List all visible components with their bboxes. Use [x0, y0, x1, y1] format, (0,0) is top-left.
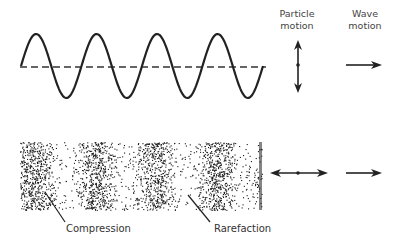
particle-dot [229, 198, 230, 199]
particle-dot [46, 187, 47, 188]
particle-dot [210, 147, 211, 148]
particle-dot [91, 153, 92, 154]
particle-dot [202, 184, 203, 185]
particle-dot [65, 145, 66, 146]
particle-dot [177, 205, 178, 206]
particle-dot [219, 162, 220, 163]
particle-dot [216, 170, 217, 171]
particle-dot [102, 152, 103, 153]
particle-dot [197, 170, 198, 171]
particle-dot [72, 179, 73, 180]
particle-dot [222, 180, 223, 181]
particle-dot [98, 148, 99, 149]
particle-dot [162, 177, 163, 178]
particle-dot [179, 143, 180, 144]
particle-dot [200, 152, 201, 153]
particle-dot [217, 163, 218, 164]
particle-dot [218, 203, 219, 204]
particle-dot [138, 169, 139, 170]
particle-dot [133, 182, 134, 183]
particle-dot [161, 167, 162, 168]
particle-dot [76, 189, 77, 190]
particle-dot [235, 168, 236, 169]
particle-dot [232, 186, 233, 187]
particle-dot [206, 178, 207, 179]
particle-dot [120, 143, 121, 144]
particle-dot [137, 209, 138, 210]
particle-dot [138, 204, 139, 205]
particle-dot [34, 156, 35, 157]
particle-dot [98, 200, 99, 201]
particle-dot [152, 153, 153, 154]
particle-dot [29, 142, 30, 143]
particle-dot [165, 161, 166, 162]
particle-dot [116, 200, 117, 201]
particle-dot [91, 202, 92, 203]
particle-dot [226, 152, 227, 153]
particle-dot [230, 164, 231, 165]
particle-dot [79, 150, 80, 151]
particle-dot [89, 163, 90, 164]
particle-dot [110, 200, 111, 201]
particle-dot [157, 201, 158, 202]
particle-dot [125, 206, 126, 207]
particle-dot [41, 144, 42, 145]
particle-dot [152, 144, 153, 145]
particle-dot [86, 177, 87, 178]
particle-dot [94, 196, 95, 197]
particle-dot [52, 188, 53, 189]
particle-dot [40, 153, 41, 154]
particle-dot [147, 160, 148, 161]
particle-dot [262, 174, 263, 175]
particle-dot [39, 202, 40, 203]
particle-dot [36, 180, 37, 181]
particle-dot [151, 198, 152, 199]
particle-dot [214, 153, 215, 154]
particle-dot [216, 149, 217, 150]
particle-dot [150, 183, 151, 184]
particle-dot [256, 158, 257, 159]
particle-dot [43, 155, 44, 156]
particle-dot [95, 151, 96, 152]
particle-dot [128, 167, 129, 168]
particle-dot [124, 153, 125, 154]
particle-dot [31, 184, 32, 185]
particle-dot [170, 163, 171, 164]
particle-dot [91, 195, 92, 196]
particle-dot [48, 207, 49, 208]
particle-dot [200, 144, 201, 145]
particle-dot [228, 164, 229, 165]
particle-dot [139, 161, 140, 162]
particle-dot [86, 147, 87, 148]
particle-dot [40, 182, 41, 183]
particle-dot [209, 161, 210, 162]
particle-dot [148, 202, 149, 203]
particle-dot [41, 187, 42, 188]
particle-dot [141, 184, 142, 185]
particle-dot [170, 150, 171, 151]
particle-dot [91, 181, 92, 182]
particle-dot [20, 183, 21, 184]
particle-dot [128, 187, 129, 188]
particle-dot [226, 173, 227, 174]
particle-dot [103, 188, 104, 189]
particle-dot [159, 158, 160, 159]
particle-dot [212, 162, 213, 163]
particle-dot [112, 177, 113, 178]
particle-dot [197, 147, 198, 148]
particle-dot [29, 207, 30, 208]
particle-dot [252, 196, 253, 197]
particle-dot [219, 158, 220, 159]
particle-dot [167, 152, 168, 153]
particle-dot [213, 206, 214, 207]
particle-dot [89, 187, 90, 188]
particle-dot [136, 185, 137, 186]
particle-dot [64, 202, 65, 203]
particle-dot [36, 196, 37, 197]
particle-dot [153, 205, 154, 206]
particle-dot [188, 156, 189, 157]
particle-dot [156, 146, 157, 147]
particle-dot [48, 189, 49, 190]
particle-dot [200, 182, 201, 183]
particle-dot [253, 183, 254, 184]
